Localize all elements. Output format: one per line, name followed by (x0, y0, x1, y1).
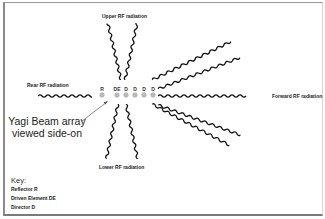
element-director-3 (142, 93, 147, 98)
upper-forward-wave-1 (152, 40, 232, 81)
rear-wave (38, 95, 126, 97)
element-director-2 (133, 93, 138, 98)
lower-forward-wave-1 (158, 104, 241, 136)
array-caption-line1: Yagi Beam array (8, 115, 86, 127)
rear-radiation-label: Rear RF radiation (27, 82, 69, 88)
lower-forward-wave-2 (151, 103, 230, 146)
lower-wave-right (125, 104, 145, 191)
lower-wave-left (99, 104, 119, 191)
upper-radiation-label: Upper RF radiation (102, 13, 147, 19)
key-item-driven-element: Driven Element DE (11, 195, 56, 201)
key-item-reflector: Reflector R (11, 186, 38, 192)
array-caption-line2: viewed side-on (8, 127, 86, 139)
radiation-waves (0, 0, 325, 219)
element-label-r: R (97, 86, 107, 92)
forward-radiation-label: Forward RF radiation (272, 93, 322, 99)
element-director-4 (151, 93, 156, 98)
element-driven (115, 93, 120, 98)
upper-forward-wave-2 (158, 56, 241, 90)
lower-radiation-label: Lower RF radiation (99, 164, 144, 170)
array-caption: Yagi Beam array viewed side-on (8, 115, 86, 139)
key-title: Key: (11, 176, 26, 185)
element-label-d4: D (148, 86, 158, 92)
key-item-director: Director D (11, 204, 35, 210)
element-reflector (100, 93, 105, 98)
forward-wave (158, 95, 246, 97)
yagi-elements (100, 93, 156, 98)
element-director-1 (124, 93, 129, 98)
